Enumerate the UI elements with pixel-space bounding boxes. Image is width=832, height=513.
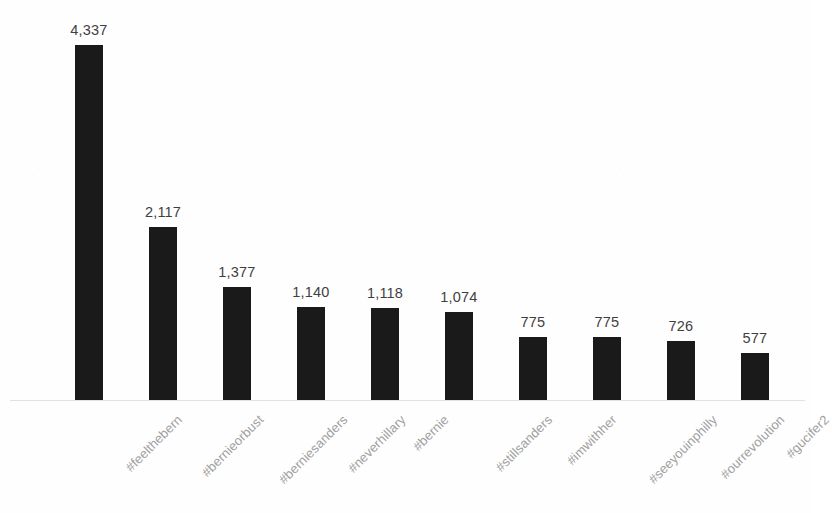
category-label: #ourrevolution: [718, 412, 788, 482]
bar-value-label: 1,377: [197, 264, 277, 280]
bar-value-label: 577: [715, 330, 795, 346]
category-label: #neverhillary: [345, 412, 409, 476]
bar: [741, 353, 769, 400]
bar: [445, 312, 473, 400]
bar: [223, 287, 251, 400]
bar-value-label: 4,337: [49, 22, 129, 38]
category-label: #feelthebern: [123, 412, 186, 475]
bar-value-label: 1,140: [271, 284, 351, 300]
bar-value-label: 726: [641, 318, 721, 334]
category-label: #imwithher: [564, 412, 620, 468]
bar: [149, 227, 177, 400]
bar: [75, 45, 103, 400]
bar-value-label: 1,074: [419, 289, 499, 305]
bar-value-label: 1,118: [345, 285, 425, 301]
x-axis-baseline: [10, 400, 805, 401]
category-label: #bernieorbust: [199, 412, 267, 480]
category-label: #bernie: [410, 412, 452, 454]
bar: [593, 337, 621, 400]
bar: [297, 307, 325, 400]
bar: [371, 308, 399, 400]
bar: [519, 337, 547, 400]
bar-value-label: 775: [567, 314, 647, 330]
category-label: #gucifer2: [783, 412, 832, 461]
bar-value-label: 775: [493, 314, 573, 330]
bar-value-label: 2,117: [123, 204, 203, 220]
category-label: #berniesanders: [276, 412, 351, 487]
bar: [667, 341, 695, 400]
category-label: #seeyouinphilly: [645, 412, 720, 487]
category-label: #stillsanders: [493, 412, 556, 475]
